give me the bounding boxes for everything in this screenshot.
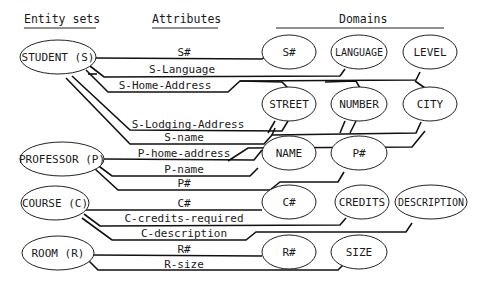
domain-p-num[interactable]: P# [331, 136, 387, 170]
header-domains: Domains [339, 12, 387, 26]
attr-p-home-address: P-home-address [138, 147, 231, 160]
svg-text:LEVEL: LEVEL [413, 46, 446, 59]
svg-text:R#: R# [282, 246, 296, 259]
domain-level[interactable]: LEVEL [403, 35, 457, 69]
domain-language[interactable]: LANGUAGE [331, 35, 387, 69]
domain-r-num[interactable]: R# [262, 235, 316, 269]
entity-room[interactable]: ROOM (R) [22, 236, 94, 270]
attr-p-name: P-name [164, 163, 204, 176]
entity-room-label: ROOM (R) [32, 247, 85, 260]
svg-text:STREET: STREET [269, 98, 309, 111]
domain-street[interactable]: STREET [262, 87, 316, 121]
entity-professor-label: PROFESSOR (P) [19, 153, 105, 166]
attribute-labels: S# S-Language S-Home-Address S-Lodging-A… [119, 46, 245, 271]
attr-s-name: S-name [164, 131, 204, 144]
attr-s-home-address: S-Home-Address [119, 79, 212, 92]
domain-s-num[interactable]: S# [262, 35, 316, 69]
domain-city[interactable]: CITY [403, 87, 457, 121]
domain-c-num[interactable]: C# [262, 185, 316, 219]
entity-student-label: STUDENT (S) [22, 51, 95, 64]
svg-text:DESCRIPTION: DESCRIPTION [398, 197, 464, 208]
attr-r-size: R-size [164, 258, 204, 271]
domain-credits[interactable]: CREDITS [335, 185, 389, 219]
svg-text:P#: P# [352, 147, 366, 160]
svg-text:C#: C# [282, 196, 296, 209]
attr-r-num: R# [177, 243, 191, 256]
header-attributes: Attributes [152, 12, 221, 26]
er-diagram: Entity sets Attributes Domains [0, 0, 484, 292]
domain-size[interactable]: SIZE [331, 235, 387, 269]
svg-text:CREDITS: CREDITS [339, 196, 385, 209]
attr-s-num: S# [177, 46, 191, 59]
entity-student[interactable]: STUDENT (S) [20, 40, 96, 74]
domain-name[interactable]: NAME [262, 136, 316, 170]
domain-description[interactable]: DESCRIPTION [395, 185, 467, 219]
entity-course-label: COURSE (C) [22, 197, 88, 210]
svg-text:LANGUAGE: LANGUAGE [335, 47, 383, 58]
attr-p-num: P# [177, 177, 191, 190]
svg-text:SIZE: SIZE [346, 246, 373, 259]
entity-professor[interactable]: PROFESSOR (P) [19, 142, 105, 176]
svg-text:NAME: NAME [276, 147, 303, 160]
svg-text:CITY: CITY [417, 98, 444, 111]
svg-text:NUMBER: NUMBER [339, 98, 379, 111]
attr-c-description: C-description [141, 227, 227, 240]
svg-text:S#: S# [282, 46, 296, 59]
entity-course[interactable]: COURSE (C) [21, 186, 89, 220]
header-entity-sets: Entity sets [24, 12, 100, 26]
attr-c-credits-required: C-credits-required [124, 212, 243, 225]
domain-number[interactable]: NUMBER [331, 87, 387, 121]
attr-s-language: S-Language [149, 63, 215, 76]
attr-s-lodging-address: S-Lodging-Address [132, 118, 245, 131]
attr-c-num: C# [177, 197, 191, 210]
column-headers: Entity sets Attributes Domains [24, 12, 444, 28]
